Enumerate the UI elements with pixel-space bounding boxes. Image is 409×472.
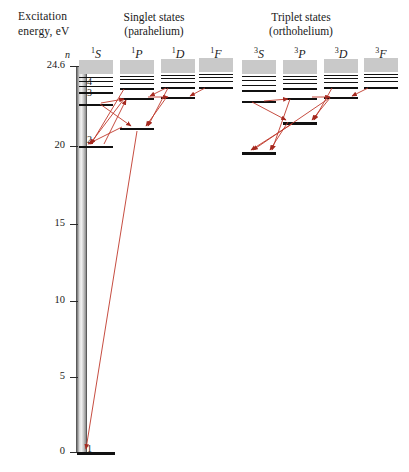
transition-1S2-to-1P3 [104,100,126,144]
transition-3D3-to-3P2 [312,98,330,120]
transition-3D3-to-3S2 [253,99,328,150]
transition-1D4-to-1P2 [148,88,168,126]
transition-1D4-to-1P3 [150,88,166,96]
transition-3S3-to-3P2 [252,102,286,120]
transition-3P3-to-3S2 [272,99,290,150]
transition-1D3-to-1P2 [146,98,166,126]
transition-1P4-to-1S2 [91,89,124,144]
transition-arrows [0,0,409,472]
helium-grotrian-diagram: Excitation energy, eV Singlet states (pa… [0,0,409,472]
transition-1S3-to-1P2 [100,104,131,126]
transition-3S3-to-3P3 [264,99,288,101]
transition-1P2-to-1S1 [86,131,137,449]
transition-1S3-to-1P3 [101,99,124,103]
transition-1F4-to-1D3 [190,88,205,96]
transition-3D4-to-3P2 [314,88,332,120]
transition-3F4-to-3D3 [352,88,368,96]
